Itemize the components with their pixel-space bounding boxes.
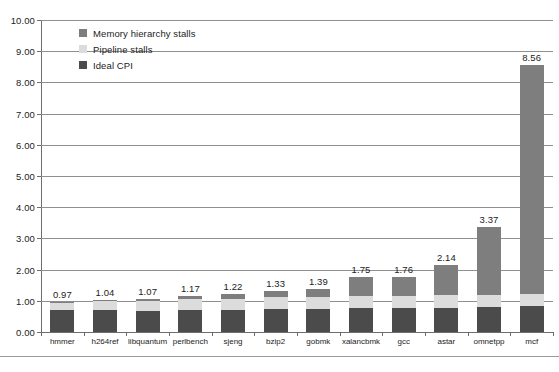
bar-value-label: 3.37 xyxy=(480,214,499,225)
bar-segment-pipeline-stalls[interactable] xyxy=(221,299,245,310)
bar-stack[interactable] xyxy=(477,227,501,332)
bar-segment-pipeline-stalls[interactable] xyxy=(306,297,330,309)
bar-segment-ideal-cpi[interactable] xyxy=(178,310,202,332)
bar-segment-ideal-cpi[interactable] xyxy=(221,310,245,332)
x-tick-mark xyxy=(41,332,42,336)
caption-divider xyxy=(0,356,559,357)
bar-segment-pipeline-stalls[interactable] xyxy=(178,299,202,309)
bar-segment-ideal-cpi[interactable] xyxy=(136,311,160,332)
legend-swatch-icon xyxy=(79,29,87,37)
bar-stack[interactable] xyxy=(93,300,117,332)
y-tick-label: 6.00 xyxy=(16,140,35,151)
bar-value-label: 1.07 xyxy=(138,286,157,297)
chart-root: 0.001.002.003.004.005.006.007.008.009.00… xyxy=(0,0,559,372)
bar-segment-memory-hierarchy-stalls[interactable] xyxy=(264,291,288,298)
x-tick-mark xyxy=(169,332,170,336)
x-tick-mark xyxy=(254,332,255,336)
bar-segment-pipeline-stalls[interactable] xyxy=(93,301,117,310)
y-tick-label: 7.00 xyxy=(16,109,35,120)
legend-item[interactable]: Memory hierarchy stalls xyxy=(79,26,196,40)
x-tick-mark xyxy=(468,332,469,336)
x-tick-mark xyxy=(382,332,383,336)
bar-stack[interactable] xyxy=(349,277,373,332)
x-tick-mark xyxy=(425,332,426,336)
bar-group[interactable]: 0.97 xyxy=(50,20,74,332)
legend-item[interactable]: Pipeline stalls xyxy=(79,42,196,56)
bar-value-label: 1.04 xyxy=(96,287,115,298)
bar-group[interactable]: 3.37 xyxy=(477,20,501,332)
x-tick-label: omnetpp xyxy=(473,337,504,346)
bar-segment-ideal-cpi[interactable] xyxy=(50,310,74,332)
x-axis-tick-labels: hmmerh264reflibquantumperlbenchsjengbzip… xyxy=(41,337,553,351)
bar-value-label: 8.56 xyxy=(522,52,541,63)
bar-group[interactable]: 1.39 xyxy=(306,20,330,332)
bar-group[interactable]: 1.22 xyxy=(221,20,245,332)
bar-stack[interactable] xyxy=(520,65,544,332)
y-tick-label: 0.00 xyxy=(16,327,35,338)
y-tick-label: 2.00 xyxy=(16,265,35,276)
bar-stack[interactable] xyxy=(50,302,74,332)
bar-segment-pipeline-stalls[interactable] xyxy=(520,294,544,306)
x-tick-label: gcc xyxy=(397,337,409,346)
bar-segment-pipeline-stalls[interactable] xyxy=(264,297,288,309)
legend-swatch-icon xyxy=(79,61,87,69)
bar-segment-memory-hierarchy-stalls[interactable] xyxy=(477,227,501,295)
bar-stack[interactable] xyxy=(434,265,458,332)
bar-value-label: 0.97 xyxy=(53,289,72,300)
bar-segment-pipeline-stalls[interactable] xyxy=(50,303,74,310)
bar-segment-pipeline-stalls[interactable] xyxy=(392,296,416,308)
x-tick-mark xyxy=(126,332,127,336)
bar-segment-pipeline-stalls[interactable] xyxy=(477,295,501,307)
bar-segment-ideal-cpi[interactable] xyxy=(306,309,330,332)
x-tick-mark xyxy=(212,332,213,336)
x-tick-label: gobmk xyxy=(306,337,330,346)
bar-stack[interactable] xyxy=(178,296,202,332)
x-tick-mark xyxy=(510,332,511,336)
bar-value-label: 1.22 xyxy=(224,281,243,292)
x-tick-mark xyxy=(553,332,554,336)
y-tick-label: 9.00 xyxy=(16,46,35,57)
bar-segment-ideal-cpi[interactable] xyxy=(477,307,501,332)
legend-item-label: Memory hierarchy stalls xyxy=(93,28,196,39)
x-tick-label: bzip2 xyxy=(266,337,285,346)
bar-segment-memory-hierarchy-stalls[interactable] xyxy=(392,277,416,296)
x-tick-label: astar xyxy=(437,337,455,346)
bar-stack[interactable] xyxy=(136,299,160,332)
bar-segment-ideal-cpi[interactable] xyxy=(520,306,544,332)
bar-segment-ideal-cpi[interactable] xyxy=(264,309,288,332)
bar-stack[interactable] xyxy=(264,291,288,332)
bar-segment-pipeline-stalls[interactable] xyxy=(434,295,458,307)
x-tick-label: mcf xyxy=(525,337,538,346)
bar-segment-ideal-cpi[interactable] xyxy=(434,308,458,332)
x-tick-label: libquantum xyxy=(128,337,167,346)
bar-segment-ideal-cpi[interactable] xyxy=(392,308,416,332)
bar-segment-memory-hierarchy-stalls[interactable] xyxy=(306,289,330,297)
bar-group[interactable]: 2.14 xyxy=(434,20,458,332)
bar-segment-pipeline-stalls[interactable] xyxy=(136,301,160,311)
bar-group[interactable]: 1.33 xyxy=(264,20,288,332)
bar-group[interactable]: 1.76 xyxy=(392,20,416,332)
bar-stack[interactable] xyxy=(306,289,330,332)
bar-group[interactable]: 1.75 xyxy=(349,20,373,332)
legend-swatch-icon xyxy=(79,45,87,53)
x-tick-mark xyxy=(340,332,341,336)
bar-stack[interactable] xyxy=(392,277,416,332)
bar-value-label: 1.17 xyxy=(181,283,200,294)
bar-segment-ideal-cpi[interactable] xyxy=(349,308,373,332)
bar-segment-memory-hierarchy-stalls[interactable] xyxy=(349,277,373,296)
bar-segment-memory-hierarchy-stalls[interactable] xyxy=(520,65,544,294)
bar-value-label: 1.76 xyxy=(394,264,413,275)
bar-segment-ideal-cpi[interactable] xyxy=(93,310,117,332)
x-tick-label: xalancbmk xyxy=(342,337,380,346)
bar-segment-memory-hierarchy-stalls[interactable] xyxy=(434,265,458,295)
x-tick-label: h264ref xyxy=(91,337,118,346)
y-tick-label: 10.00 xyxy=(11,15,35,26)
bar-segment-pipeline-stalls[interactable] xyxy=(349,296,373,308)
y-tick-label: 1.00 xyxy=(16,296,35,307)
bar-stack[interactable] xyxy=(221,294,245,332)
y-tick-label: 8.00 xyxy=(16,77,35,88)
legend-item[interactable]: Ideal CPI xyxy=(79,58,196,72)
bar-value-label: 2.14 xyxy=(437,252,456,263)
x-tick-mark xyxy=(297,332,298,336)
bar-group[interactable]: 8.56 xyxy=(520,20,544,332)
